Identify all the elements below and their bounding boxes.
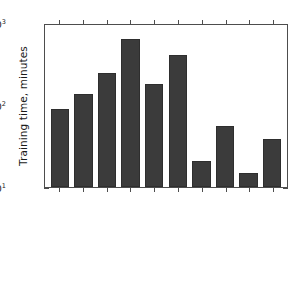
bar[interactable] [74,94,92,187]
figure: Training time, minutes 103102101 BOVF+RB… [0,0,306,308]
bar-cell [119,25,143,187]
bar[interactable] [98,73,116,187]
x-tick-mark [107,188,108,192]
x-tick-mark [83,188,84,192]
y-axis-title: Training time, minutes [17,16,29,196]
bar[interactable] [145,84,163,187]
bar[interactable] [239,173,257,187]
bar[interactable] [192,161,210,187]
bar[interactable] [121,39,139,187]
x-tick-mark [249,188,250,192]
x-tick-mark [154,188,155,192]
plot-area [44,24,288,188]
bar[interactable] [51,109,69,187]
x-tick-mark [202,188,203,192]
x-tick-mark [226,188,227,192]
bar-cell [142,25,166,187]
x-tick-mark [130,188,131,192]
bar[interactable] [216,126,234,187]
x-tick-mark [59,188,60,192]
bar-cell [72,25,96,187]
bar-cell [260,25,284,187]
bar-cell [95,25,119,187]
x-tick-mark [178,188,179,192]
bar-cell [213,25,237,187]
y-tick-mark [44,188,49,189]
bar-cell [190,25,214,187]
bar-cell [166,25,190,187]
bar-cell [48,25,72,187]
bar[interactable] [263,139,281,187]
bar[interactable] [169,55,187,187]
bar-series [45,25,287,187]
x-tick-mark [273,188,274,192]
bar-cell [237,25,261,187]
